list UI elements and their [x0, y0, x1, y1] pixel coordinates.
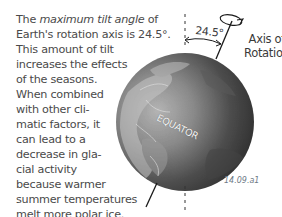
axis-label-line-1: Axis of: [244, 32, 282, 46]
axis-label-line-2: Rotation: [244, 46, 282, 60]
rotation-arrow-icon: [219, 13, 243, 27]
earth-globe-icon: [116, 53, 254, 191]
tilted-axis-line-bottom: [146, 183, 157, 207]
figure-id: 14.09.a1: [224, 176, 259, 185]
axis-of-rotation-label: Axis of Rotation: [244, 32, 282, 60]
